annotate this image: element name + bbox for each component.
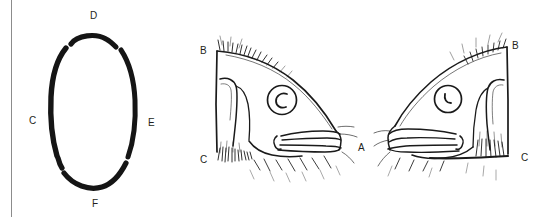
fish-head-right-view: B C <box>370 0 547 217</box>
label-d: D <box>90 11 97 21</box>
label-c-left: C <box>29 116 36 126</box>
label-c-left-fish: C <box>200 155 207 165</box>
label-b-left-fish: B <box>200 46 207 56</box>
label-e: E <box>148 118 155 128</box>
label-b-right-fish: B <box>512 41 519 51</box>
figure-container: D C E F <box>0 0 547 217</box>
fish-head-left-view: B C A <box>190 0 370 217</box>
label-f: F <box>92 199 98 209</box>
egg-outline-diagram: D C E F <box>0 0 190 217</box>
label-a: A <box>358 143 365 153</box>
label-c-right-fish: C <box>521 153 528 163</box>
